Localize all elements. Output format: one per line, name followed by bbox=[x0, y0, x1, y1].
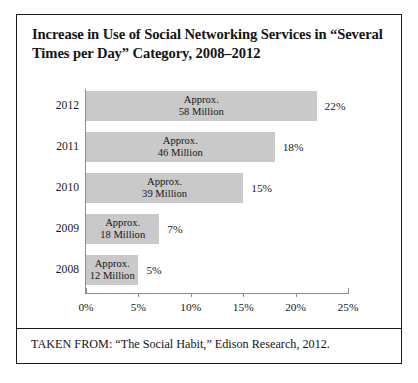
x-axis-tick-label: 5% bbox=[118, 301, 158, 313]
bar bbox=[86, 91, 317, 121]
bar bbox=[86, 132, 275, 162]
x-axis-tick bbox=[191, 293, 192, 297]
x-axis-tick bbox=[86, 288, 87, 294]
x-axis-tick bbox=[348, 288, 349, 294]
x-axis-tick bbox=[243, 293, 244, 297]
bar-category-label: 2009 bbox=[17, 214, 79, 244]
bar-value-label: 15% bbox=[251, 173, 272, 203]
bar-row: 2010Approx.39 Million15% bbox=[17, 173, 403, 203]
x-axis-line bbox=[85, 293, 348, 294]
bar-value-label: 22% bbox=[325, 91, 346, 121]
x-axis-tick-label: 0% bbox=[66, 301, 106, 313]
bar-category-label: 2012 bbox=[17, 91, 79, 121]
bar-row: 2008Approx.12 Million5% bbox=[17, 255, 403, 285]
x-axis-tick bbox=[138, 293, 139, 297]
bar-row: 2012Approx.58 Million22% bbox=[17, 91, 403, 121]
footer-divider bbox=[17, 328, 401, 329]
bar-chart-plot-area: 0%5%10%15%20%25% 2012Approx.58 Million22… bbox=[17, 85, 403, 315]
source-attribution: TAKEN FROM: “The Social Habit,” Edison R… bbox=[31, 337, 330, 352]
bar-row: 2009Approx.18 Million7% bbox=[17, 214, 403, 244]
bar-category-label: 2010 bbox=[17, 173, 79, 203]
bar bbox=[86, 173, 243, 203]
bar-category-label: 2011 bbox=[17, 132, 79, 162]
x-axis-tick bbox=[296, 293, 297, 297]
bar-row: 2011Approx.46 Million18% bbox=[17, 132, 403, 162]
x-axis-tick-label: 25% bbox=[328, 301, 368, 313]
figure-panel: Increase in Use of Social Networking Ser… bbox=[16, 14, 402, 364]
bar-category-label: 2008 bbox=[17, 255, 79, 285]
bar bbox=[86, 255, 138, 285]
bar-value-label: 5% bbox=[146, 255, 161, 285]
x-axis-tick-label: 20% bbox=[276, 301, 316, 313]
bar-value-label: 18% bbox=[283, 132, 304, 162]
x-axis-tick-label: 15% bbox=[223, 301, 263, 313]
chart-title: Increase in Use of Social Networking Ser… bbox=[32, 25, 388, 64]
x-axis-tick-label: 10% bbox=[171, 301, 211, 313]
bar-value-label: 7% bbox=[167, 214, 182, 244]
bar bbox=[86, 214, 159, 244]
